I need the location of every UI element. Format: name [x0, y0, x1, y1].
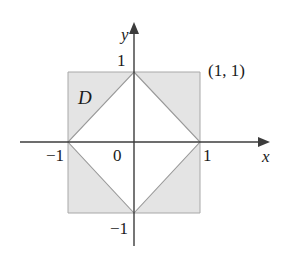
diagram-canvas: [0, 0, 284, 254]
x-axis-arrow-icon: [258, 137, 270, 147]
origin-label: 0: [113, 147, 122, 164]
corner-point-label: (1, 1): [208, 62, 245, 79]
x-tick-label-negative-one: −1: [46, 147, 64, 164]
y-axis-label: y: [121, 26, 129, 43]
y-tick-label-one: 1: [117, 52, 126, 69]
region-label-d: D: [78, 88, 92, 107]
figure-region-d: y x 1 −1 −1 1 0 D (1, 1): [0, 0, 284, 254]
y-tick-label-negative-one: −1: [110, 220, 128, 237]
y-axis-arrow-icon: [129, 22, 139, 34]
x-axis-label: x: [262, 148, 270, 165]
x-tick-label-one: 1: [203, 147, 212, 164]
